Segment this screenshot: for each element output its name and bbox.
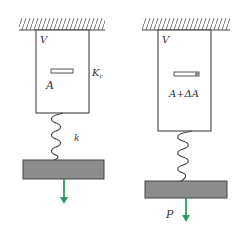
right-ceiling: [142, 18, 230, 30]
right-spring: [178, 131, 192, 181]
left-area-label: A: [45, 79, 54, 92]
left-slot-mark: [51, 69, 73, 73]
left-assembly: V A Kc k: [19, 18, 105, 204]
left-spring: [52, 113, 64, 160]
left-plate: [23, 160, 104, 179]
ceiling-hatch: [19, 18, 105, 30]
right-plate: [145, 181, 227, 198]
diagram-canvas: V A Kc k V A+ΔA P: [0, 0, 249, 232]
right-vessel-box: [158, 30, 211, 131]
right-arrow: [182, 198, 190, 222]
stiffness-label: Kc: [91, 67, 103, 79]
force-label: P: [165, 208, 174, 221]
slot-extension: [195, 72, 199, 76]
arrow-down-icon: [182, 215, 190, 222]
ceiling-hatch: [142, 18, 230, 30]
left-ceiling: [19, 18, 105, 30]
arrow-down-icon: [60, 197, 68, 204]
right-assembly: V A+ΔA P: [142, 18, 230, 222]
spring-label: k: [74, 133, 79, 143]
right-area-label: A+ΔA: [168, 88, 199, 99]
left-arrow: [60, 179, 68, 204]
